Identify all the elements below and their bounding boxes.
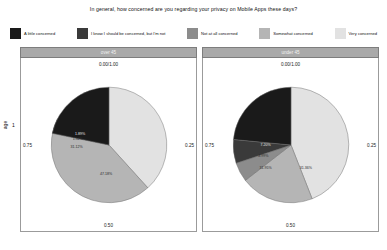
slice-label-very-concerned: 31.95% [260,166,272,170]
radial-tick-top: 0.00/1.00 [281,62,300,67]
radial-tick-left: 0.75 [205,142,214,147]
legend-item: I know I should be concerned, but I'm no… [77,28,166,39]
radial-tick-right: 0.25 [185,142,194,147]
legend-swatch-icon [259,28,270,39]
legend-item-label: Not at all concerned [201,31,237,36]
chart-container: In general, how concerned are you regard… [0,0,387,250]
y-axis-title: age [2,121,8,129]
legend-swatch-icon [187,28,198,39]
radial-tick-bottom: 0.50 [104,223,113,228]
slice-label-somewhat-concerned: 31.12% [71,145,83,149]
pie-under-45: 31.36% 31.95% 4.99% 7.20% [232,86,350,204]
panel-plot-area: 0.00/1.00 0.25 0.50 0.75 31.36% [202,58,379,232]
radial-tick-right: 0.25 [367,142,376,147]
legend-item: A little concerned [10,28,55,39]
y-axis-tick: 1 [12,122,15,128]
slice-label-not-at-all-concerned: 4.99% [258,154,268,158]
legend-swatch-icon [77,28,88,39]
radial-tick-bottom: 0.50 [286,223,295,228]
legend-item-label: A little concerned [24,31,55,36]
panel-over-45: over 45 0.00/1.00 0.25 0.50 0.75 [20,47,197,232]
panel-strip-label: over 45 [20,47,197,58]
legend-item: Very concerned [335,28,377,39]
chart-title: In general, how concerned are you regard… [0,6,387,12]
legend-item: Not at all concerned [187,28,237,39]
legend-item-label: Very concerned [349,31,377,36]
radial-tick-left: 0.75 [23,142,32,147]
legend: A little concerned I know I should be co… [10,26,377,40]
legend-swatch-icon [335,28,346,39]
legend-item-label: I know I should be concerned, but I'm no… [91,31,166,36]
panel-row: over 45 0.00/1.00 0.25 0.50 0.75 [20,47,380,232]
legend-item-label: Somewhat concerned [273,31,313,36]
pie-svg [50,86,168,204]
slice-label-should-be-concerned: 1.89% [75,132,85,136]
pie-svg [232,86,350,204]
legend-swatch-icon [10,28,21,39]
panel-plot-area: 0.00/1.00 0.25 0.50 0.75 47.18% [20,58,197,232]
slice-label-very-concerned: 47.18% [100,172,112,176]
slice-label-somewhat-concerned: 31.36% [300,166,312,170]
legend-item: Somewhat concerned [259,28,313,39]
radial-tick-top: 0.00/1.00 [99,62,118,67]
slice-label-not-at-all-concerned: 1.52% [73,137,83,141]
pie-slice-a-little-concerned [233,87,291,145]
panel-strip-label: under 45 [202,47,379,58]
slice-label-should-be-concerned: 7.20% [261,143,271,147]
panel-under-45: under 45 0.00/1.00 0.25 0.50 0.75 [202,47,379,232]
pie-over-45: 47.18% 31.12% 1.52% 1.89% [50,86,168,204]
